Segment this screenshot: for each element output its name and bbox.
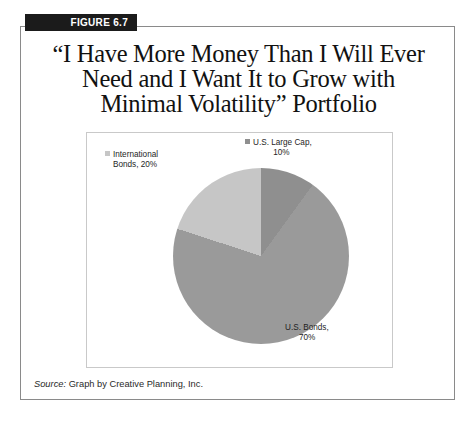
source-note: Source: Graph by Creative Planning, Inc. (34, 379, 203, 389)
pie-chart (173, 168, 349, 344)
figure-title: “I Have More Money Than I Will Ever Need… (37, 41, 440, 116)
pie-label-international-bonds: International Bonds, 20% (105, 150, 158, 170)
pie-label-us-bonds-line1: U.S. Bonds, (285, 323, 329, 332)
pie-label-us-bonds: U.S. Bonds, 70% (277, 323, 329, 343)
source-label: Source: (34, 379, 66, 389)
title-line-1: “I Have More Money Than I Will Ever (37, 41, 440, 66)
pie-label-international-bonds-line1: International (113, 150, 158, 159)
pie-label-us-large-cap-line2: 10% (245, 148, 312, 158)
figure-card: “I Have More Money Than I Will Ever Need… (20, 26, 455, 400)
figure-number-tab: FIGURE 6.7 (25, 14, 137, 31)
pie-label-international-bonds-line2: Bonds, 20% (105, 160, 158, 170)
pie-label-us-large-cap: U.S. Large Cap, 10% (245, 138, 312, 158)
title-line-2: Need and I Want It to Grow with (37, 66, 440, 91)
pie-label-us-large-cap-line1: U.S. Large Cap, (253, 138, 312, 147)
legend-swatch-us-large-cap (245, 139, 250, 144)
figure-number-label: FIGURE 6.7 (71, 17, 128, 28)
source-text: Graph by Creative Planning, Inc. (69, 379, 203, 389)
pie-label-us-bonds-line2: 70% (277, 333, 329, 343)
title-line-3: Minimal Volatility” Portfolio (37, 91, 440, 116)
plot-area: U.S. Large Cap, 10% International Bonds,… (86, 132, 393, 368)
legend-swatch-us-bonds (277, 324, 282, 329)
legend-swatch-international-bonds (105, 151, 110, 156)
